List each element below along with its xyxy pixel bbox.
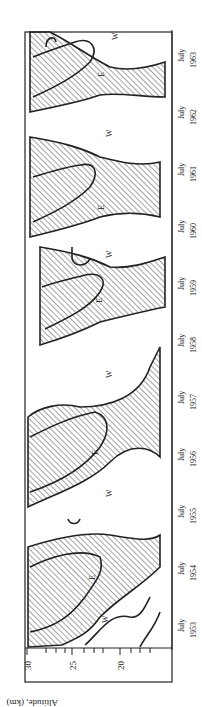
easterly-region-1958 xyxy=(40,247,165,345)
svg-text:July: July xyxy=(177,505,186,518)
svg-text:W: W xyxy=(105,250,114,258)
svg-text:1954: 1954 xyxy=(189,565,198,581)
easterly-region-1954 xyxy=(28,534,160,647)
svg-text:1959: 1959 xyxy=(189,280,198,296)
svg-text:W: W xyxy=(105,370,114,378)
svg-text:E: E xyxy=(97,205,106,210)
svg-text:1962: 1962 xyxy=(189,109,198,125)
ytick-25: 25 xyxy=(68,661,78,671)
altitude-tick-labels: 30 25 20 xyxy=(23,661,126,671)
svg-text:July: July xyxy=(177,163,186,176)
svg-text:E: E xyxy=(95,298,104,303)
svg-text:1957: 1957 xyxy=(189,394,198,410)
svg-text:July: July xyxy=(177,49,186,62)
svg-text:July: July xyxy=(177,391,186,404)
svg-text:W: W xyxy=(101,615,110,623)
svg-text:July: July xyxy=(177,334,186,347)
time-tick-labels: July 1953 July 1954 July 1955 July 1956 … xyxy=(177,49,198,638)
altitude-axis xyxy=(25,648,172,655)
svg-text:July: July xyxy=(177,562,186,575)
ytick-30: 30 xyxy=(23,661,33,671)
svg-text:1960: 1960 xyxy=(189,223,198,239)
chart-svg: 30 25 20 Altitude, (km) July 1953 July 1… xyxy=(0,0,202,707)
svg-text:1953: 1953 xyxy=(189,622,198,638)
svg-text:1963: 1963 xyxy=(189,52,198,68)
svg-text:July: July xyxy=(177,277,186,290)
svg-text:W: W xyxy=(105,489,114,497)
easterly-region-1956 xyxy=(28,347,160,507)
svg-text:E: E xyxy=(97,72,106,77)
easterly-region-1962 xyxy=(30,32,165,112)
svg-text:1961: 1961 xyxy=(189,166,198,182)
svg-text:July: July xyxy=(177,220,186,233)
svg-text:July: July xyxy=(177,106,186,119)
svg-text:W: W xyxy=(111,32,120,40)
svg-text:1956: 1956 xyxy=(189,451,198,467)
altitude-axis-label: Altitude, (km) xyxy=(7,698,59,707)
svg-text:E: E xyxy=(91,450,100,455)
ytick-20: 20 xyxy=(116,661,126,671)
chart-figure: 30 25 20 Altitude, (km) July 1953 July 1… xyxy=(0,0,202,707)
rotated-plot xyxy=(25,32,172,682)
svg-text:E: E xyxy=(88,575,97,580)
svg-text:July: July xyxy=(177,448,186,461)
easterly-region-1960 xyxy=(30,137,160,237)
svg-text:1958: 1958 xyxy=(189,337,198,353)
svg-text:1955: 1955 xyxy=(189,508,198,524)
svg-text:July: July xyxy=(177,619,186,632)
svg-text:W: W xyxy=(105,129,114,137)
